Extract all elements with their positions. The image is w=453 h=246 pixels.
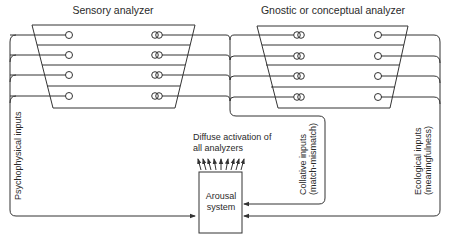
ecological-inputs-label: Ecological inputs: [413, 127, 423, 195]
arrow-up-icon: [214, 159, 216, 170]
single-circle-node-icon: [66, 52, 73, 59]
single-circle-node-icon: [375, 73, 382, 80]
gnostic-analyzer: [234, 26, 434, 108]
gnostic-analyzer-title: Gnostic or conceptual analyzer: [261, 4, 406, 16]
single-circle-node-icon: [375, 32, 382, 39]
arrow-up-icon: [226, 159, 228, 170]
diffuse-activation-arrows: Diffuse activation of all analyzers: [193, 132, 272, 170]
psychophysical-inputs-label: Psychophysical inputs: [13, 111, 23, 200]
double-circle-node-icon: [294, 73, 305, 80]
single-circle-node-icon: [375, 53, 382, 60]
double-circle-node-icon: [152, 93, 163, 100]
ecological-connector: [244, 35, 440, 216]
arousal-analyzer-diagram: Sensory analyzer Gnostic or conceptual a…: [0, 0, 453, 246]
system-label: system: [207, 202, 236, 212]
diffuse-label-line1: Diffuse activation of: [193, 132, 272, 142]
double-circle-node-icon: [294, 53, 305, 60]
arrow-up-icon: [198, 159, 201, 170]
single-circle-node-icon: [375, 94, 382, 101]
collative-inputs-sublabel: (match-mismatch): [308, 123, 318, 195]
diffuse-label-line2: all analyzers: [193, 143, 244, 153]
single-circle-node-icon: [66, 72, 73, 79]
collative-inputs-label: Collative inputs: [298, 133, 308, 195]
gnostic-analyzer-frame: [257, 26, 408, 108]
single-circle-node-icon: [66, 32, 73, 39]
sensory-analyzer: [10, 25, 226, 108]
arrow-up-icon: [231, 159, 234, 170]
double-circle-node-icon: [294, 94, 305, 101]
ecological-inputs-sublabel: (meaningfulness): [423, 126, 433, 195]
double-circle-node-icon: [152, 32, 163, 39]
arrow-up-icon: [208, 159, 211, 170]
psychophysical-connector: [10, 35, 195, 216]
arrow-up-icon: [241, 159, 244, 170]
arousal-system-box: Arousal system: [199, 172, 242, 233]
sensory-analyzer-title: Sensory analyzer: [72, 4, 154, 16]
single-circle-node-icon: [66, 93, 73, 100]
arousal-label: Arousal: [206, 191, 237, 201]
arrow-up-icon: [236, 159, 239, 170]
double-circle-node-icon: [294, 32, 305, 39]
arrow-up-icon: [203, 159, 206, 170]
double-circle-node-icon: [152, 72, 163, 79]
double-circle-node-icon: [152, 52, 163, 59]
